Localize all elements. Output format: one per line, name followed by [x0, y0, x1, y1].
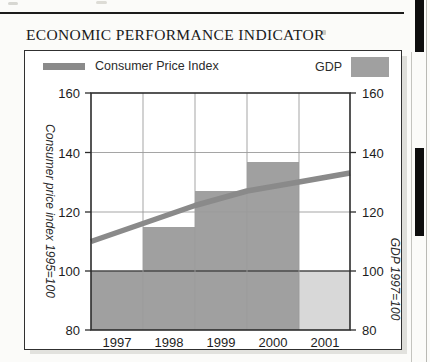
axis-left-title: Consumer price index 1995=100	[43, 124, 57, 298]
page-edge-inner-line	[411, 52, 412, 362]
axis-right-tick-80: 80	[362, 323, 376, 338]
axis-year-1998: 1998	[155, 335, 184, 350]
page-edge-bar	[415, 148, 424, 236]
scan-artifact-speck	[8, 2, 18, 5]
axis-left-ticks	[85, 93, 91, 330]
axis-right-tick-120: 120	[362, 205, 384, 220]
axis-year-1999: 1999	[207, 335, 236, 350]
axis-year-1997: 1997	[103, 335, 132, 350]
chart-figure: Consumer Price Index GDP	[24, 50, 402, 350]
axis-left-tick-120: 120	[58, 205, 80, 220]
gdp-bars	[91, 162, 350, 330]
axis-year-2000: 2000	[259, 335, 288, 350]
axis-left-tick-100: 100	[58, 264, 80, 279]
gdp-bar-2001	[299, 271, 350, 330]
axis-left-tick-80: 80	[66, 323, 80, 338]
axis-right-tick-100: 100	[362, 264, 384, 279]
axis-year-2001: 2001	[311, 335, 340, 350]
axis-left-tick-160: 160	[58, 86, 80, 101]
page-title: ECONOMIC PERFORMANCE INDICATOR	[26, 26, 325, 44]
page-edge-line	[426, 0, 427, 362]
gdp-bar-1997	[91, 271, 143, 330]
axis-right-tick-160: 160	[362, 86, 384, 101]
axis-left-tick-140: 140	[58, 146, 80, 161]
axis-right-ticks	[350, 93, 356, 330]
page-edge-bar	[415, 0, 424, 52]
page-horizontal-rule	[0, 12, 404, 14]
gdp-bar-1998	[143, 227, 195, 330]
plot-area: 160 140 120 100 80 160 140 120 100 80 19…	[25, 51, 403, 351]
axis-right-tick-140: 140	[362, 146, 384, 161]
axis-right-title: GDP 1997=100	[388, 238, 402, 321]
chart-svg: 160 140 120 100 80 160 140 120 100 80 19…	[25, 51, 403, 351]
scan-artifact-speck	[96, 1, 107, 4]
